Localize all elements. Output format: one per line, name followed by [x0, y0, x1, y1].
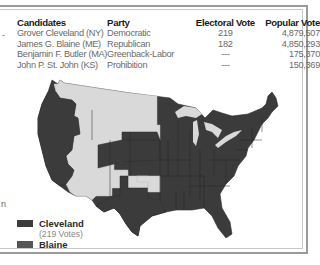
- legend-label-cleveland: Cleveland: [39, 218, 84, 229]
- legend-item-cleveland: Cleveland: [17, 218, 84, 229]
- state-nebraska: [122, 132, 160, 140]
- legend-sublabel-cleveland: (219 Votes): [39, 229, 84, 239]
- legend-item-blaine: Blaine: [17, 239, 84, 250]
- legend-label-blaine: Blaine: [39, 239, 68, 250]
- blaine-swatch: [17, 241, 33, 248]
- cleveland-swatch: [17, 220, 33, 227]
- map-legend: Cleveland (219 Votes) Blaine: [17, 218, 84, 250]
